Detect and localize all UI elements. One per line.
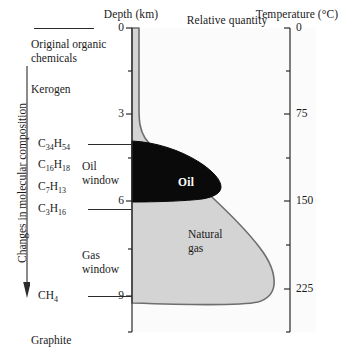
- temperature-tick-0: 0: [296, 21, 326, 33]
- depth-tick-6: 6: [102, 194, 124, 206]
- petroleum-generation-figure: Depth (km) Temperature (°C) Relative qua…: [0, 0, 350, 363]
- natural-gas-line2: gas: [188, 242, 222, 256]
- depth-axis: [126, 28, 132, 332]
- natural-gas-region-label: Natural gas: [188, 228, 222, 255]
- depth-tick-3: 3: [102, 107, 124, 119]
- temperature-tick-225: 225: [296, 282, 326, 294]
- temperature-tick-75: 75: [296, 107, 326, 119]
- depth-tick-9: 9: [102, 289, 124, 301]
- depth-tick-0: 0: [102, 21, 124, 33]
- natural-gas-line1: Natural: [188, 228, 222, 242]
- chart-plot-area: [0, 0, 350, 363]
- oil-region-label: Oil: [178, 176, 194, 188]
- temperature-tick-150: 150: [296, 194, 326, 206]
